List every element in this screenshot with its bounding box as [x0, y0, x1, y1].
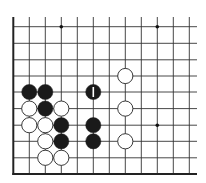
white-stone [54, 101, 69, 116]
black-stone [38, 101, 53, 116]
white-stone [38, 150, 53, 165]
black-stone [86, 134, 101, 149]
black-stone [38, 84, 53, 99]
go-board [0, 0, 206, 183]
white-stone [22, 101, 37, 116]
white-stone [118, 68, 133, 83]
white-stone [118, 101, 133, 116]
star-point-icon [156, 123, 160, 127]
white-stone [38, 118, 53, 133]
black-stone [86, 118, 101, 133]
move-marker-icon [93, 87, 95, 97]
white-stone [38, 134, 53, 149]
star-point-icon [60, 25, 64, 29]
black-stone [54, 118, 69, 133]
white-stone [54, 150, 69, 165]
white-stone [22, 118, 37, 133]
black-stone [22, 84, 37, 99]
white-stone [118, 134, 133, 149]
black-stone [54, 134, 69, 149]
star-point-icon [156, 25, 160, 29]
